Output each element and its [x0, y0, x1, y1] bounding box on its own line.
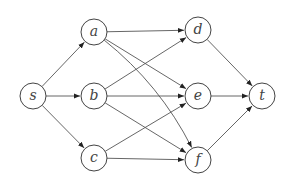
node-label: b	[90, 87, 99, 103]
edge-s-c	[42, 105, 84, 148]
node-s: s	[20, 83, 46, 109]
node-label: a	[90, 23, 98, 39]
edge-s-a	[42, 42, 84, 86]
node-label: s	[29, 87, 36, 103]
edge-a-f	[104, 40, 192, 147]
node-label: t	[259, 87, 265, 103]
edge-f-t	[207, 106, 252, 151]
node-f: f	[185, 147, 211, 173]
node-a: a	[81, 19, 107, 45]
node-label: c	[90, 149, 98, 165]
node-d: d	[185, 17, 211, 43]
node-t: t	[249, 83, 275, 109]
node-label: e	[194, 87, 202, 103]
node-c: c	[81, 145, 107, 171]
edge-c-f	[107, 158, 184, 159]
node-label: d	[194, 21, 203, 37]
node-b: b	[81, 83, 107, 109]
graph-canvas: sabcdeft	[0, 0, 289, 181]
node-e: e	[185, 83, 211, 109]
edges-layer	[42, 30, 252, 159]
edge-a-d	[107, 30, 184, 31]
edge-d-t	[207, 39, 252, 86]
nodes-layer: sabcdeft	[20, 17, 275, 173]
